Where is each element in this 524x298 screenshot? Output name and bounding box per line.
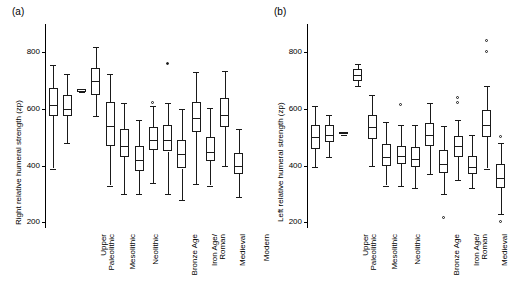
whisker-lower xyxy=(430,146,431,174)
x-category-label: Neolithic xyxy=(414,234,422,265)
x-category-label: Mesolithic xyxy=(390,234,398,270)
cap-upper xyxy=(64,74,70,75)
cap-lower xyxy=(412,188,418,189)
box-body xyxy=(106,102,115,146)
panel-a-label: (a) xyxy=(12,6,24,17)
cap-lower xyxy=(79,92,85,93)
outlier-point xyxy=(442,216,445,219)
whisker-lower xyxy=(444,173,445,194)
y-axis-line xyxy=(45,24,46,228)
median-line xyxy=(206,152,215,153)
cap-upper xyxy=(341,132,347,133)
box-body xyxy=(163,125,172,152)
whisker-lower xyxy=(239,174,240,197)
outlier-point xyxy=(456,96,459,99)
whisker-upper xyxy=(239,129,240,153)
whisker-upper xyxy=(329,115,330,125)
cap-upper xyxy=(398,125,404,126)
cap-upper xyxy=(383,122,389,123)
cap-lower xyxy=(312,167,318,168)
whisker-lower xyxy=(110,146,111,186)
x-category-label: Bronze Age xyxy=(453,234,461,275)
box-body xyxy=(206,137,215,161)
median-line xyxy=(163,140,172,141)
y-tick xyxy=(42,109,46,110)
cap-upper xyxy=(79,89,85,90)
y-tick-label: 400 xyxy=(16,161,40,170)
median-line xyxy=(63,109,72,110)
cap-upper xyxy=(355,64,361,65)
median-line xyxy=(454,146,463,147)
cap-upper xyxy=(369,95,375,96)
cap-upper xyxy=(326,115,332,116)
cap-upper xyxy=(312,106,318,107)
cap-lower xyxy=(107,186,113,187)
outlier-point xyxy=(485,39,488,42)
box-body xyxy=(220,98,229,128)
x-category-label: Mesolithic xyxy=(128,234,136,270)
cap-upper xyxy=(441,126,447,127)
outlier-point xyxy=(151,101,154,104)
cap-upper xyxy=(136,120,142,121)
x-category-label: Medieval xyxy=(501,234,509,266)
x-category-label: Neolithic xyxy=(152,234,160,265)
cap-lower xyxy=(498,214,504,215)
whisker-upper xyxy=(501,143,502,164)
panel-b-plot: 200400600800Upper PaleolithicMesolithicN… xyxy=(308,24,508,228)
cap-lower xyxy=(383,186,389,187)
cap-upper xyxy=(222,71,228,72)
y-tick xyxy=(304,166,308,167)
box-body xyxy=(149,127,158,150)
whisker-lower xyxy=(401,164,402,185)
y-tick-label: 600 xyxy=(16,104,40,113)
cap-upper xyxy=(193,72,199,73)
panel-b: (b) Left relative humeral strength (zp) … xyxy=(262,0,524,298)
figure-root: (a) Right relative humeral strength (zp)… xyxy=(0,0,524,298)
median-line xyxy=(368,127,377,128)
cap-upper xyxy=(455,120,461,121)
y-tick-label: 400 xyxy=(278,161,302,170)
whisker-lower xyxy=(472,174,473,188)
cap-upper xyxy=(121,103,127,104)
y-tick xyxy=(42,166,46,167)
cap-lower xyxy=(369,166,375,167)
cap-lower xyxy=(222,166,228,167)
median-line xyxy=(234,166,243,167)
median-line xyxy=(325,135,334,136)
whisker-upper xyxy=(225,71,226,98)
y-tick xyxy=(304,52,308,53)
whisker-upper xyxy=(182,109,183,140)
cap-lower xyxy=(207,186,213,187)
whisker-lower xyxy=(67,116,68,143)
box-body xyxy=(49,88,58,116)
median-line xyxy=(425,135,434,136)
whisker-lower xyxy=(315,149,316,167)
median-line xyxy=(120,146,129,147)
whisker-lower xyxy=(96,95,97,116)
cap-upper xyxy=(107,74,113,75)
cap-lower xyxy=(193,184,199,185)
cap-lower xyxy=(165,194,171,195)
whisker-lower xyxy=(372,139,373,166)
x-category-label: Medieval xyxy=(239,234,247,266)
median-line xyxy=(382,157,391,158)
cap-upper xyxy=(469,135,475,136)
whisker-lower xyxy=(458,157,459,180)
median-line xyxy=(439,164,448,165)
cap-lower xyxy=(455,180,461,181)
cap-lower xyxy=(469,188,475,189)
cap-lower xyxy=(93,116,99,117)
panel-a: (a) Right relative humeral strength (zp)… xyxy=(0,0,262,298)
box-body xyxy=(234,153,243,174)
cap-upper xyxy=(93,47,99,48)
x-category-label: Upper Paleolithic xyxy=(363,234,379,270)
outlier-point xyxy=(399,103,402,106)
whisker-lower xyxy=(124,157,125,194)
box-body xyxy=(63,95,72,116)
median-line xyxy=(220,115,229,116)
whisker-upper xyxy=(315,106,316,124)
whisker-upper xyxy=(415,125,416,148)
cap-lower xyxy=(179,200,185,201)
outlier-point xyxy=(166,62,169,65)
whisker-lower xyxy=(501,188,502,214)
